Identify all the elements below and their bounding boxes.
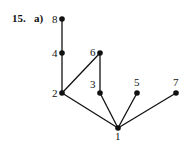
node-label-1: 1 bbox=[115, 130, 121, 141]
node-4 bbox=[59, 50, 65, 56]
node-3 bbox=[97, 90, 103, 96]
node-label-2: 2 bbox=[52, 87, 58, 99]
node-7 bbox=[173, 90, 179, 96]
hasse-diagram: 84623571 bbox=[0, 0, 195, 141]
node-label-3: 3 bbox=[90, 78, 96, 90]
node-6 bbox=[97, 50, 103, 56]
node-8 bbox=[59, 16, 65, 22]
node-5 bbox=[134, 90, 140, 96]
node-label-4: 4 bbox=[52, 47, 58, 59]
node-label-8: 8 bbox=[52, 13, 58, 25]
node-2 bbox=[59, 90, 65, 96]
node-label-7: 7 bbox=[173, 76, 179, 88]
edge-7-1 bbox=[118, 93, 176, 128]
node-label-5: 5 bbox=[134, 76, 140, 88]
node-label-6: 6 bbox=[90, 46, 96, 58]
